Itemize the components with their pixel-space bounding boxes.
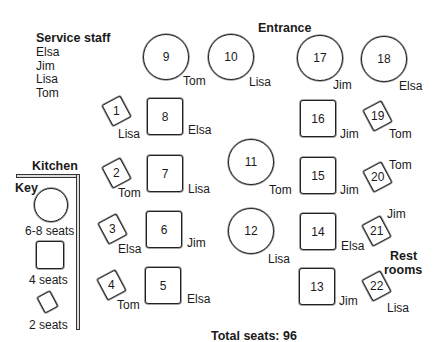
- key-round-table-icon: [34, 188, 68, 222]
- key-square-table-icon: [36, 241, 64, 269]
- table-number: 3: [109, 222, 116, 236]
- table-number: 7: [162, 167, 169, 181]
- key-label: Key: [15, 182, 38, 195]
- table-number: 17: [313, 51, 326, 65]
- key-small-label: 2 seats: [29, 319, 68, 332]
- server-label: Elsa: [118, 243, 141, 256]
- table-number: 19: [371, 109, 384, 123]
- service-staff-title: Service staff: [36, 32, 110, 45]
- server-label: Tom: [118, 187, 141, 200]
- table-number: 6: [161, 223, 168, 237]
- table-8[interactable]: 8: [147, 98, 183, 135]
- table-number: 1: [113, 104, 120, 118]
- table-number: 9: [163, 50, 170, 64]
- rest-rooms-label-line1: Rest: [390, 250, 417, 263]
- staff-name: Tom: [36, 87, 59, 101]
- kitchen-label: Kitchen: [32, 160, 78, 173]
- table-number: 13: [310, 280, 323, 294]
- table-number: 16: [311, 112, 324, 126]
- server-label: Jim: [340, 184, 359, 197]
- server-label: Lisa: [118, 128, 140, 141]
- server-label: Tom: [117, 299, 140, 312]
- table-16[interactable]: 16: [300, 100, 336, 137]
- table-number: 22: [370, 279, 383, 293]
- table-12[interactable]: 12: [228, 208, 274, 254]
- server-label: Elsa: [188, 124, 211, 137]
- server-label: Lisa: [387, 302, 409, 315]
- table-7[interactable]: 7: [147, 155, 183, 192]
- table-11[interactable]: 11: [228, 139, 274, 185]
- server-label: Jim: [187, 237, 206, 250]
- staff-name: Lisa: [36, 73, 59, 87]
- table-number: 21: [370, 224, 383, 238]
- kitchen-wall-horizontal: [16, 174, 80, 178]
- table-number: 5: [160, 279, 167, 293]
- kitchen-wall-vertical: [76, 174, 80, 330]
- table-number: 8: [162, 110, 169, 124]
- table-number: 14: [311, 225, 324, 239]
- table-6[interactable]: 6: [146, 211, 182, 248]
- table-1[interactable]: 1: [102, 95, 132, 126]
- entrance-label: Entrance: [258, 22, 312, 35]
- table-number: 18: [377, 52, 390, 66]
- key-round-label: 6-8 seats: [25, 225, 74, 238]
- table-20[interactable]: 20: [363, 161, 393, 192]
- table-number: 11: [245, 155, 257, 169]
- server-label: Jim: [333, 79, 352, 92]
- table-3[interactable]: 3: [98, 213, 128, 244]
- server-label: Tom: [269, 184, 292, 197]
- server-label: Lisa: [249, 76, 271, 89]
- server-label: Tom: [389, 159, 412, 172]
- server-label: Tom: [183, 75, 206, 88]
- table-5[interactable]: 5: [145, 267, 181, 304]
- table-18[interactable]: 18: [361, 36, 407, 82]
- server-label: Tom: [389, 128, 412, 141]
- staff-list: Elsa Jim Lisa Tom: [36, 46, 59, 100]
- rest-rooms-label-line2: rooms: [384, 264, 422, 277]
- table-17[interactable]: 17: [297, 35, 343, 81]
- table-13[interactable]: 13: [299, 268, 335, 305]
- server-label: Jim: [339, 295, 358, 308]
- staff-name: Jim: [36, 60, 59, 74]
- server-label: Jim: [387, 208, 406, 221]
- server-label: Elsa: [341, 240, 364, 253]
- server-label: Lisa: [188, 183, 210, 196]
- table-number: 15: [311, 169, 324, 183]
- table-15[interactable]: 15: [300, 157, 336, 194]
- server-label: Elsa: [187, 293, 210, 306]
- total-seats-label: Total seats: 96: [211, 330, 297, 342]
- server-label: Elsa: [399, 80, 422, 93]
- table-14[interactable]: 14: [300, 213, 336, 250]
- server-label: Lisa: [268, 253, 290, 266]
- table-number: 20: [371, 170, 384, 184]
- key-square-label: 4 seats: [29, 274, 68, 287]
- table-4[interactable]: 4: [97, 269, 127, 300]
- table-number: 4: [108, 278, 115, 292]
- table-number: 2: [113, 166, 120, 180]
- table-number: 12: [244, 224, 257, 238]
- table-2[interactable]: 2: [102, 157, 132, 188]
- table-10[interactable]: 10: [208, 34, 254, 80]
- table-number: 10: [224, 50, 237, 64]
- table-19[interactable]: 19: [363, 100, 393, 131]
- server-label: Jim: [340, 128, 359, 141]
- staff-name: Elsa: [36, 46, 59, 60]
- key-small-table-icon: [37, 291, 59, 314]
